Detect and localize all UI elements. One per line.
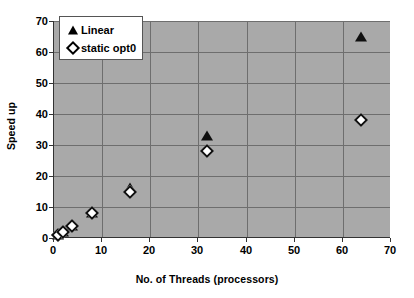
x-axis-tick	[101, 238, 102, 242]
gridline-horizontal	[54, 145, 390, 146]
gridline-vertical	[343, 21, 344, 237]
y-axis-tick-label: 60	[4, 47, 48, 58]
legend-item-static-opt0: static opt0	[67, 39, 142, 57]
gridline-vertical	[247, 21, 248, 237]
gridline-horizontal	[54, 176, 390, 177]
y-axis-title: Speed up	[5, 91, 17, 161]
x-axis-tick	[197, 238, 198, 242]
x-axis-tick	[342, 238, 343, 242]
x-axis-tick-label: 70	[375, 244, 405, 256]
legend-label-static-opt0: static opt0	[81, 42, 136, 54]
gridline-horizontal	[54, 207, 390, 208]
filled-triangle-icon	[355, 31, 367, 41]
filled-triangle-icon	[201, 130, 213, 140]
y-axis-tick-label: 70	[4, 16, 48, 27]
x-axis-tick	[149, 238, 150, 242]
scatter-chart: 010203040506070 010203040506070 Linear s…	[0, 0, 414, 298]
x-axis-tick-label: 30	[182, 244, 212, 256]
x-axis-tick-label: 60	[327, 244, 357, 256]
x-axis-tick-label: 20	[134, 244, 164, 256]
x-axis-tick	[246, 238, 247, 242]
y-axis-tick	[49, 52, 53, 53]
gridline-vertical	[295, 21, 296, 237]
chart-legend: Linear static opt0	[59, 16, 143, 60]
x-axis-tick	[390, 238, 391, 242]
y-axis-tick	[49, 83, 53, 84]
legend-label-linear: Linear	[81, 24, 114, 36]
y-axis-tick	[49, 21, 53, 22]
gridline-horizontal	[54, 114, 390, 115]
y-axis-tick	[49, 207, 53, 208]
y-axis-tick-label: 50	[4, 78, 48, 89]
gridline-vertical	[150, 21, 151, 237]
legend-item-linear: Linear	[67, 21, 142, 39]
x-axis-tick	[294, 238, 295, 242]
open-diamond-icon	[67, 42, 79, 54]
x-axis-tick-label: 40	[231, 244, 261, 256]
y-axis-tick-label: 10	[4, 202, 48, 213]
filled-triangle-icon	[67, 24, 79, 36]
gridline-horizontal	[54, 83, 390, 84]
gridline-vertical	[198, 21, 199, 237]
y-axis-tick-label: 0	[4, 233, 48, 244]
x-axis-title: No. of Threads (processors)	[0, 273, 414, 285]
y-axis-tick-label: 20	[4, 171, 48, 182]
y-axis-tick	[49, 176, 53, 177]
x-axis-tick	[53, 238, 54, 242]
x-axis-tick-label: 10	[86, 244, 116, 256]
x-axis-tick-label: 50	[279, 244, 309, 256]
x-axis-tick-label: 0	[38, 244, 68, 256]
y-axis-tick	[49, 145, 53, 146]
y-axis-tick	[49, 114, 53, 115]
